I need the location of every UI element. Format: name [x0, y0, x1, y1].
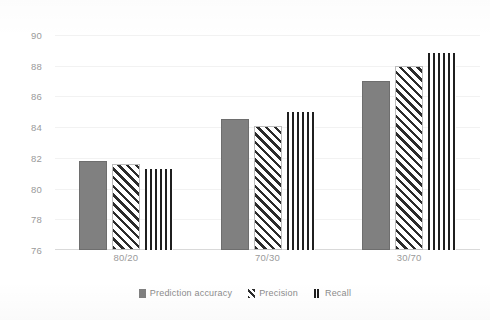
x-axis-labels: 80/2070/3030/70	[55, 252, 480, 268]
y-axis-tick-label: 90	[31, 30, 42, 41]
bar	[428, 53, 456, 250]
chart-legend: Prediction accuracyPrecisionRecall	[0, 288, 490, 298]
bar-fill	[362, 81, 390, 250]
bar	[395, 66, 423, 250]
legend-label: Recall	[325, 288, 351, 298]
y-axis-tick-label: 80	[31, 183, 42, 194]
bar-chart: 7678808284868890 80/2070/3030/70 Predict…	[0, 0, 490, 320]
legend-swatch-icon	[248, 289, 255, 298]
y-axis-tick-label: 78	[31, 214, 42, 225]
legend-swatch-icon	[314, 289, 321, 298]
x-axis-tick-label: 70/30	[255, 252, 280, 263]
bar	[362, 81, 390, 250]
x-axis-tick-label: 30/70	[397, 252, 422, 263]
legend-item[interactable]: Precision	[248, 288, 298, 298]
clipped-title-strip	[0, 0, 490, 9]
y-axis-labels: 7678808284868890	[0, 35, 50, 250]
y-axis-tick-label: 86	[31, 91, 42, 102]
legend-item[interactable]: Recall	[314, 288, 351, 298]
y-axis-tick-label: 84	[31, 122, 42, 133]
y-axis-tick-label: 88	[31, 60, 42, 71]
legend-label: Precision	[259, 288, 298, 298]
x-axis-tick-label: 80/20	[113, 252, 138, 263]
y-axis-tick-label: 82	[31, 152, 42, 163]
bar-fill	[395, 66, 423, 250]
bar-groups	[55, 35, 480, 250]
y-axis-tick-label: 76	[31, 245, 42, 256]
legend-item[interactable]: Prediction accuracy	[139, 288, 232, 298]
legend-label: Prediction accuracy	[150, 288, 232, 298]
bar-fill	[428, 53, 456, 250]
legend-swatch-icon	[139, 289, 146, 298]
plot-area	[55, 35, 480, 250]
bar-group	[55, 35, 480, 250]
